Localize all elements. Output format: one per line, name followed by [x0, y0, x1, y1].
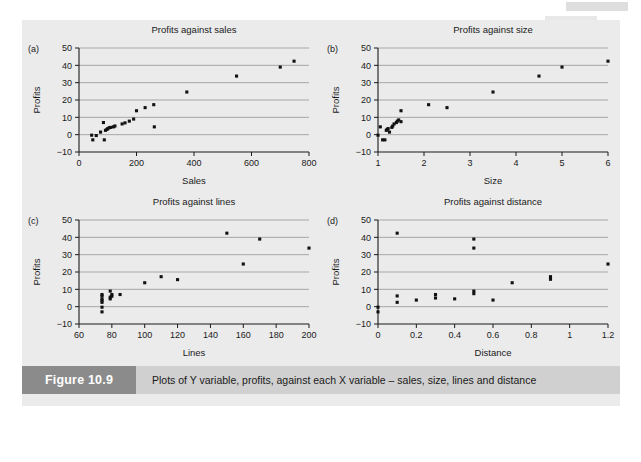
y-tick-label: 50	[62, 215, 72, 225]
scan-artifact-top	[566, 2, 628, 11]
data-point	[387, 127, 390, 130]
x-tick-label: 0.6	[487, 330, 500, 340]
data-point	[453, 297, 456, 300]
data-point	[109, 290, 112, 293]
x-tick-label: 5	[559, 158, 564, 168]
data-point	[399, 120, 402, 123]
data-point	[110, 295, 113, 298]
y-tick-label: 30	[62, 78, 72, 88]
data-point	[102, 121, 105, 124]
y-tick-label: 20	[62, 95, 72, 105]
y-tick-label: 10	[62, 113, 72, 123]
data-point	[399, 109, 402, 112]
chart-title: Profits against distance	[444, 196, 542, 207]
panel-label: (b)	[327, 44, 338, 54]
data-point	[307, 247, 310, 250]
data-point	[242, 262, 245, 265]
data-point	[123, 121, 126, 124]
x-axis-label: Distance	[475, 347, 512, 358]
x-tick-label: 160	[236, 330, 251, 340]
chart-panel-b: Profits against size(b)−1001020304050123…	[321, 20, 620, 192]
x-tick-label: 0.8	[525, 330, 538, 340]
data-point	[103, 138, 106, 141]
y-tick-label: 40	[361, 233, 371, 243]
x-tick-label: 600	[244, 158, 259, 168]
data-point	[388, 131, 391, 134]
y-tick-label: 20	[361, 95, 371, 105]
data-point	[90, 134, 93, 137]
data-point	[225, 232, 228, 235]
data-point	[99, 131, 102, 134]
data-point	[549, 278, 552, 281]
data-point	[100, 310, 103, 313]
data-point	[434, 296, 437, 299]
data-point	[415, 299, 418, 302]
x-tick-label: 60	[74, 330, 84, 340]
data-point	[91, 138, 94, 141]
y-tick-label: 0	[366, 302, 371, 312]
x-tick-label: 0	[76, 158, 81, 168]
data-point	[279, 66, 282, 69]
y-tick-label: −10	[356, 147, 371, 157]
data-point	[606, 262, 609, 265]
x-tick-label: 100	[137, 330, 152, 340]
data-point	[383, 138, 386, 141]
panel-label: (a)	[28, 44, 39, 54]
data-point	[135, 109, 138, 112]
data-point	[144, 106, 147, 109]
x-tick-label: 0.4	[448, 330, 461, 340]
figure-number-tag: Figure 10.9	[22, 366, 136, 394]
y-tick-label: 50	[62, 43, 72, 53]
y-tick-label: 0	[67, 302, 72, 312]
data-point	[143, 281, 146, 284]
y-tick-label: 30	[62, 250, 72, 260]
y-axis-label: Profits	[330, 258, 341, 285]
x-tick-label: 0	[375, 330, 380, 340]
x-tick-label: 80	[107, 330, 117, 340]
x-axis-label: Size	[484, 175, 502, 186]
data-point	[491, 299, 494, 302]
y-tick-label: −10	[356, 319, 371, 329]
data-point	[293, 60, 296, 63]
x-tick-label: 2	[421, 158, 426, 168]
data-point	[472, 247, 475, 250]
x-tick-label: 1	[567, 330, 572, 340]
y-tick-label: 0	[67, 130, 72, 140]
data-point	[176, 278, 179, 281]
panel-label: (d)	[327, 216, 338, 226]
y-tick-label: −10	[57, 147, 72, 157]
scatter-plot-a: Profits against sales(a)−100102030405002…	[22, 20, 321, 192]
x-axis-label: Sales	[182, 175, 206, 186]
figure-caption-text: Plots of Y variable, profits, against ea…	[136, 366, 620, 394]
data-point	[185, 90, 188, 93]
data-point	[376, 134, 379, 137]
data-point	[396, 301, 399, 304]
x-tick-label: 200	[129, 158, 144, 168]
data-point	[121, 122, 124, 125]
data-point	[119, 293, 122, 296]
y-tick-label: 0	[366, 130, 371, 140]
y-tick-label: −10	[57, 319, 72, 329]
y-tick-label: 10	[62, 285, 72, 295]
x-tick-label: 3	[467, 158, 472, 168]
y-tick-label: 40	[62, 233, 72, 243]
data-point	[132, 118, 135, 121]
y-tick-label: 20	[361, 267, 371, 277]
x-tick-label: 800	[301, 158, 316, 168]
data-point	[396, 294, 399, 297]
chart-panel-d: Profits against distance(d)−100102030405…	[321, 192, 620, 364]
x-tick-label: 120	[170, 330, 185, 340]
data-point	[128, 120, 131, 123]
data-point	[445, 106, 448, 109]
y-tick-label: 30	[361, 78, 371, 88]
data-point	[376, 306, 379, 309]
y-tick-label: 10	[361, 113, 371, 123]
data-point	[511, 281, 514, 284]
y-axis-label: Profits	[31, 86, 42, 113]
data-point	[606, 60, 609, 63]
scatter-plot-b: Profits against size(b)−1001020304050123…	[321, 20, 620, 192]
x-tick-label: 180	[269, 330, 284, 340]
data-point	[537, 75, 540, 78]
x-tick-label: 1.2	[602, 330, 615, 340]
x-tick-label: 140	[203, 330, 218, 340]
